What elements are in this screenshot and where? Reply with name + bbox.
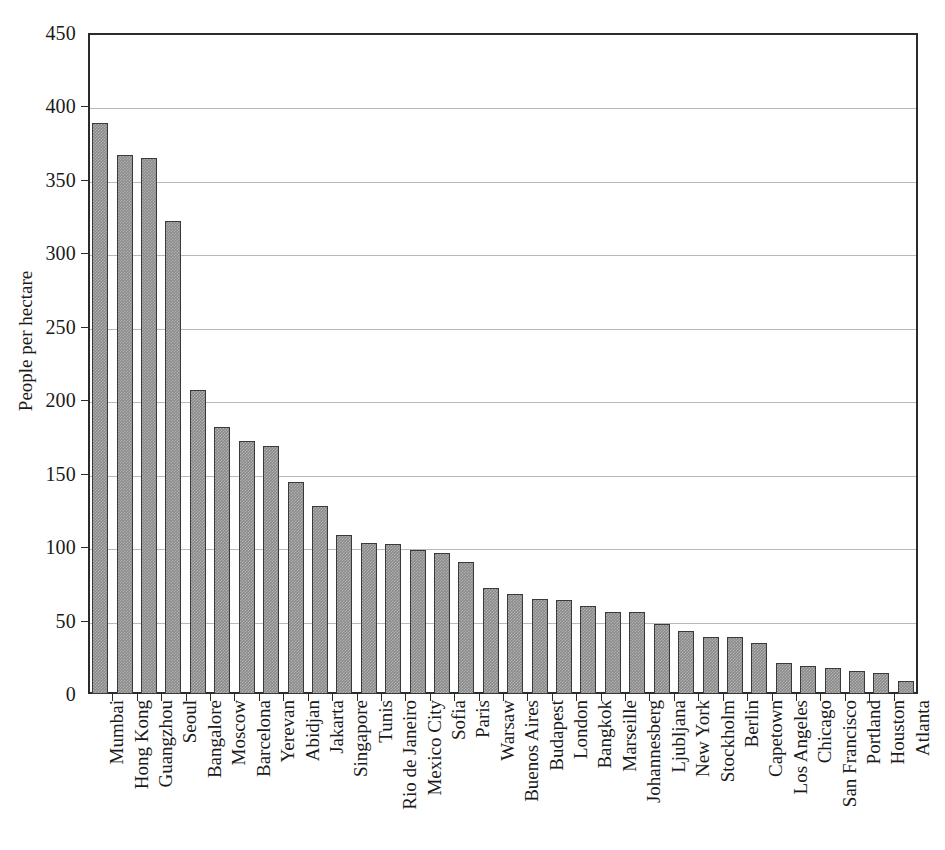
x-axis-tick-label: Marseille — [620, 700, 639, 772]
x-axis-tick-label: Berlin — [742, 700, 761, 748]
bar-chart: People per hectare 050100150200250300350… — [0, 0, 945, 850]
y-axis-tick-mark — [81, 474, 88, 475]
y-axis-tick-label: 200 — [45, 389, 76, 412]
y-axis-tick-label: 250 — [45, 315, 76, 338]
bar — [92, 123, 108, 694]
y-axis-tick-mark — [81, 327, 88, 328]
bar — [800, 666, 816, 694]
y-axis-tick-labels: 050100150200250300350400450 — [0, 0, 88, 727]
bar — [434, 553, 450, 694]
x-axis-tick-label: Mumbai — [107, 700, 126, 764]
y-axis-tick-label: 50 — [56, 609, 76, 632]
bar — [629, 612, 645, 694]
y-axis-tick-mark — [81, 621, 88, 622]
x-axis-tick-labels: MumbaiHong KongGuangzhouSeoulBangaloreMo… — [88, 700, 918, 850]
bar — [849, 671, 865, 695]
bar — [678, 631, 694, 694]
bar — [239, 441, 255, 694]
y-axis-tick-label: 150 — [45, 462, 76, 485]
bar — [727, 637, 743, 694]
bar — [654, 624, 670, 695]
y-axis-tick-label: 450 — [45, 22, 76, 45]
bar — [190, 390, 206, 694]
bar — [605, 612, 621, 694]
x-axis-tick-label: Mexico City — [425, 700, 444, 796]
y-axis-tick-label: 0 — [66, 683, 76, 706]
x-axis-tick-label: Bangalore — [205, 700, 224, 778]
bar — [214, 427, 230, 694]
bar — [483, 588, 499, 694]
bars-layer — [88, 33, 918, 694]
bar — [703, 637, 719, 694]
y-axis-tick-mark — [81, 547, 88, 548]
bar — [556, 600, 572, 694]
x-axis-tick-label: Budapest — [547, 700, 566, 771]
bar — [336, 535, 352, 694]
bar — [873, 673, 889, 694]
bar — [410, 550, 426, 694]
y-axis-tick-mark — [81, 253, 88, 254]
x-axis-tick-label: Paris — [473, 700, 492, 738]
bar — [165, 221, 181, 694]
x-axis-tick-label: Johannesberg — [644, 700, 663, 803]
x-axis-tick-label: Guangzhou — [156, 700, 175, 788]
bar — [117, 155, 133, 694]
x-axis-tick-label: Sofia — [449, 700, 468, 740]
x-axis-tick-label: Los Angeles — [791, 700, 810, 794]
x-axis-tick-label: Chicago — [815, 700, 834, 763]
y-axis-tick-label: 400 — [45, 95, 76, 118]
x-axis-tick-label: Capetown — [766, 700, 785, 777]
y-axis-tick-mark — [81, 106, 88, 107]
bar — [141, 158, 157, 694]
bar — [263, 446, 279, 694]
bar — [580, 606, 596, 694]
bar — [776, 663, 792, 694]
x-axis-tick-label: Seoul — [180, 700, 199, 743]
x-axis-tick-label: Houston — [888, 700, 907, 764]
y-axis-tick-label: 300 — [45, 242, 76, 265]
x-axis-tick-label: Singapore — [351, 700, 370, 777]
x-axis-tick-label: Atlanta — [913, 700, 932, 756]
bar — [532, 599, 548, 694]
bar — [458, 562, 474, 694]
bar — [312, 506, 328, 694]
x-axis-tick-label: Jakarta — [327, 700, 346, 754]
y-axis-tick-mark — [81, 180, 88, 181]
y-axis-tick-label: 350 — [45, 168, 76, 191]
bar — [898, 681, 914, 694]
y-axis-tick-label: 100 — [45, 536, 76, 559]
x-axis-tick-label: London — [571, 700, 590, 759]
x-axis-tick-label: Buenos Aires — [522, 700, 541, 802]
bar — [361, 543, 377, 694]
x-axis-tick-label: Ljubljana — [669, 700, 688, 773]
x-axis-tick-label: Portland — [864, 700, 883, 764]
bar — [825, 668, 841, 694]
x-axis-tick-label: Rio de Janeiro — [400, 700, 419, 810]
y-axis-tick-mark — [81, 400, 88, 401]
x-axis-tick-label: Moscow — [229, 700, 248, 765]
bar — [751, 643, 767, 694]
x-axis-tick-label: Tunis — [376, 700, 395, 743]
x-axis-tick-label: Warsaw — [498, 700, 517, 761]
x-axis-tick-label: Barcelona — [254, 700, 273, 777]
bar — [507, 594, 523, 694]
bar — [385, 544, 401, 694]
x-axis-tick-label: Yerevan — [278, 700, 297, 762]
x-axis-tick-label: Hong Kong — [132, 700, 151, 789]
x-axis-tick-label: Stockholm — [718, 700, 737, 782]
x-axis-tick-label: New York — [693, 700, 712, 777]
x-axis-tick-label: Abidjan — [303, 700, 322, 761]
x-axis-tick-label: Bangkok — [595, 700, 614, 769]
x-axis-tick-label: San Francisco — [840, 700, 859, 807]
bar — [288, 482, 304, 694]
